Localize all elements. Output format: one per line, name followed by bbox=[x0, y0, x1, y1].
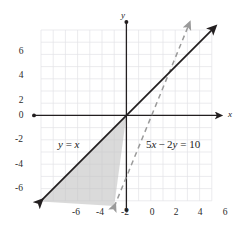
eq2-rhs: 10 bbox=[189, 138, 200, 150]
annotation-5x-minus-2y-equals-10: 5x − 2y = 10 bbox=[146, 138, 200, 150]
x-tick-4: 4 bbox=[192, 207, 208, 217]
x-tick-2: 2 bbox=[168, 207, 184, 217]
x-tick-neg-4: -4 bbox=[92, 207, 108, 217]
y-tick-0: 0 bbox=[10, 110, 32, 120]
y-tick-4: 4 bbox=[10, 70, 32, 80]
coordinate-plane-svg bbox=[0, 0, 242, 239]
annotation-y-equals-x: y = x bbox=[58, 138, 80, 150]
y-tick-6: 6 bbox=[10, 46, 32, 56]
y-tick-2: 2 bbox=[10, 95, 32, 105]
x-tick-neg-6: -6 bbox=[68, 207, 84, 217]
y-tick-neg-2: -2 bbox=[8, 134, 30, 144]
x-axis-label: x bbox=[228, 109, 232, 119]
eq1-rhs: x bbox=[75, 138, 80, 150]
graph-figure: y x 6 4 2 0 -2 -4 -6 -6 -4 -2 0 2 4 6 y … bbox=[0, 0, 242, 239]
x-tick-neg-2: -2 bbox=[117, 207, 133, 217]
y-tick-neg-6: -6 bbox=[8, 183, 30, 193]
y-axis-label: y bbox=[121, 10, 125, 20]
x-tick-6: 6 bbox=[217, 207, 233, 217]
x-tick-0: 0 bbox=[144, 207, 160, 217]
y-tick-neg-4: -4 bbox=[8, 159, 30, 169]
